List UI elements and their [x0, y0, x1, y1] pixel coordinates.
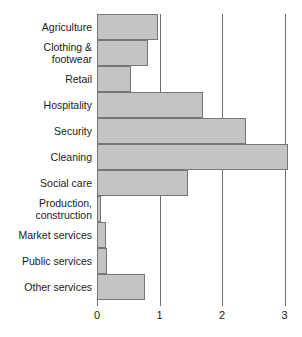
- x-axis-tick-label: 2: [212, 309, 232, 322]
- category-label-line: Cleaning: [5, 151, 92, 163]
- category-label: Public services: [5, 255, 97, 267]
- category-label: Social care: [5, 177, 97, 189]
- x-axis-tick-label: 1: [150, 309, 170, 322]
- x-axis-tick-mark: [97, 300, 98, 306]
- category-label-line: Hospitality: [5, 99, 92, 111]
- category-label: Market services: [5, 229, 97, 241]
- bar: [97, 274, 145, 300]
- x-axis-tick-mark: [222, 300, 223, 306]
- x-axis-tick-mark: [285, 300, 286, 306]
- bar: [97, 118, 246, 144]
- bar: [97, 170, 188, 196]
- category-label-line: Public services: [5, 255, 92, 267]
- category-label: Hospitality: [5, 99, 97, 111]
- category-label-line: footwear: [5, 53, 92, 65]
- bar: [97, 40, 148, 66]
- category-label: Agriculture: [5, 21, 97, 33]
- category-label-line: Social care: [5, 177, 92, 189]
- bar-chart: AgricultureClothing &footwearRetailHospi…: [0, 0, 302, 337]
- category-label-line: Other services: [5, 281, 92, 293]
- category-label-line: Market services: [5, 229, 92, 241]
- category-label: Other services: [5, 281, 97, 293]
- bar: [97, 66, 131, 92]
- category-label-line: Agriculture: [5, 21, 92, 33]
- x-axis: 0123: [97, 300, 297, 330]
- category-label-line: Security: [5, 125, 92, 137]
- category-label: Cleaning: [5, 151, 97, 163]
- x-axis-tick-label: 0: [87, 309, 107, 322]
- bar: [97, 144, 288, 170]
- bar: [97, 14, 158, 40]
- bar: [97, 248, 107, 274]
- bar: [97, 92, 203, 118]
- category-label: Clothing &footwear: [5, 41, 97, 65]
- bar: [97, 196, 101, 222]
- category-label-line: Retail: [5, 73, 92, 85]
- plot-area: [97, 14, 288, 300]
- category-label-line: Production,: [5, 197, 92, 209]
- category-label-line: construction: [5, 209, 92, 221]
- category-label: Production,construction: [5, 197, 97, 221]
- x-axis-tick-label: 3: [275, 309, 295, 322]
- category-label: Security: [5, 125, 97, 137]
- category-label: Retail: [5, 73, 97, 85]
- x-axis-tick-mark: [160, 300, 161, 306]
- category-label-line: Clothing &: [5, 41, 92, 53]
- category-axis-labels: AgricultureClothing &footwearRetailHospi…: [0, 14, 97, 300]
- bar: [97, 222, 106, 248]
